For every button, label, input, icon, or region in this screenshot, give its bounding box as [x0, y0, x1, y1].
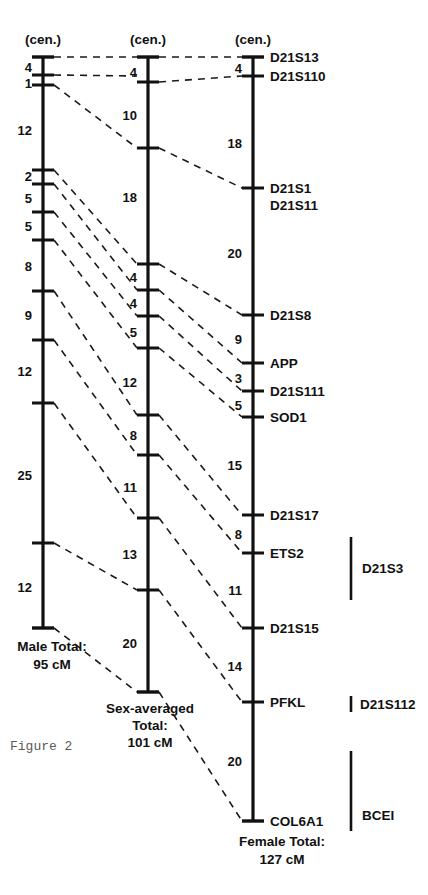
male-interval-label-1: 1 — [25, 76, 32, 91]
female-interval-label-2: 20 — [228, 246, 242, 261]
sexavg-total-line2: Total: — [132, 718, 168, 733]
sexavg-interval-label-7: 8 — [130, 428, 137, 443]
female-interval-label-9: 14 — [228, 659, 243, 674]
sex-averaged-column: (cen.) 4 10 18 4 4 5 12 8 11 13 20 — [106, 32, 194, 750]
female-interval-label-6: 15 — [228, 458, 242, 473]
connector-d21s111-male-sexavg — [54, 212, 137, 316]
female-centromere-label: (cen.) — [235, 32, 271, 47]
bracket-label-bcei: BCEI — [362, 808, 394, 823]
sexavg-centromere-label: (cen.) — [130, 32, 166, 47]
male-interval-label-10: 12 — [18, 580, 32, 595]
locus-label-d21s17: D21S17 — [270, 508, 319, 523]
female-interval-label-8: 11 — [228, 583, 242, 598]
male-total-line1: Male Total: — [17, 639, 87, 654]
male-interval-label-3: 2 — [25, 169, 32, 184]
female-interval-label-7: 8 — [235, 527, 242, 542]
figure-caption: Figure 2 — [10, 739, 72, 754]
female-total-line1: Female Total: — [239, 834, 325, 849]
male-interval-label-2: 12 — [18, 123, 32, 138]
locus-label-d21s111: D21S111 — [270, 384, 325, 399]
locus-label-d21s8: D21S8 — [270, 308, 312, 323]
sexavg-interval-label-2: 18 — [123, 190, 137, 205]
male-interval-label-7: 9 — [25, 308, 32, 323]
locus-label-ets2: ETS2 — [270, 546, 304, 561]
male-interval-label-5: 5 — [25, 219, 32, 234]
male-interval-label-9: 25 — [18, 468, 32, 483]
female-total-line2: 127 cM — [259, 852, 304, 867]
locus-label-d21s1: D21S1 — [270, 181, 312, 196]
connector-d21s110-sexavg-female — [159, 76, 242, 82]
female-column: (cen.) 4 18 20 9 3 5 15 8 11 14 20 — [228, 32, 326, 867]
female-interval-label-3: 9 — [235, 332, 242, 347]
connector-d21s15-sexavg-female — [159, 518, 242, 628]
sexavg-interval-label-6: 12 — [123, 375, 137, 390]
locus-label-d21s13: D21S13 — [270, 50, 319, 65]
connector-ets2-male-sexavg — [54, 340, 137, 455]
female-interval-label-0: 4 — [235, 61, 243, 76]
sexavg-interval-label-10: 20 — [123, 636, 137, 651]
sexavg-interval-label-5: 5 — [130, 325, 137, 340]
connector-d21s110-male-sexavg — [54, 75, 137, 76]
male-interval-label-4: 5 — [25, 191, 32, 206]
sexavg-interval-label-9: 13 — [123, 547, 137, 562]
locus-label-d21s11: D21S11 — [270, 198, 319, 213]
female-interval-label-1: 18 — [228, 136, 242, 151]
sexavg-interval-label-8: 11 — [123, 480, 137, 495]
male-interval-label-8: 12 — [18, 364, 32, 379]
sexavg-total-line1: Sex-averaged — [106, 701, 194, 716]
sexavg-total-line3: 101 cM — [127, 735, 172, 750]
locus-label-d21s15: D21S15 — [270, 621, 319, 636]
connector-d21s8-sexavg-female — [159, 264, 242, 315]
locus-label-d21s110: D21S110 — [270, 69, 326, 84]
connector-sod1-sexavg-female — [159, 348, 242, 417]
male-interval-label-6: 8 — [25, 259, 32, 274]
bracket-label-d21s3: D21S3 — [362, 561, 404, 576]
bracket-label-d21s112: D21S112 — [360, 697, 416, 712]
female-interval-label-10: 20 — [228, 754, 242, 769]
female-interval-label-4: 3 — [235, 371, 242, 386]
male-total-line2: 95 cM — [33, 657, 71, 672]
connector-d21s1-sexavg-female — [159, 148, 242, 188]
locus-label-sod1: SOD1 — [270, 410, 307, 425]
uncertain-markers: D21S3 D21S112 BCEI — [351, 537, 416, 831]
sexavg-interval-label-0: 4 — [130, 65, 138, 80]
locus-label-app: APP — [270, 356, 298, 371]
male-interval-label-0: 4 — [25, 60, 33, 75]
connector-d21s8-male-sexavg — [54, 170, 137, 264]
connector-pfkl-sexavg-female — [159, 590, 242, 702]
male-centromere-label: (cen.) — [25, 32, 61, 47]
connector-d21s15-male-sexavg — [54, 403, 137, 518]
linkage-map-figure: (cen.) 4 1 12 2 5 5 8 9 12 25 — [0, 0, 428, 895]
linkage-map-svg: (cen.) 4 1 12 2 5 5 8 9 12 25 — [0, 0, 428, 895]
female-interval-label-5: 5 — [235, 398, 242, 413]
male-column: (cen.) 4 1 12 2 5 5 8 9 12 25 — [17, 32, 87, 672]
locus-label-col6a1: COL6A1 — [270, 814, 324, 829]
sexavg-interval-label-3: 4 — [130, 270, 138, 285]
locus-label-pfkl: PFKL — [270, 695, 305, 710]
connector-sod1-male-sexavg — [54, 240, 137, 348]
sexavg-interval-label-1: 10 — [123, 108, 137, 123]
